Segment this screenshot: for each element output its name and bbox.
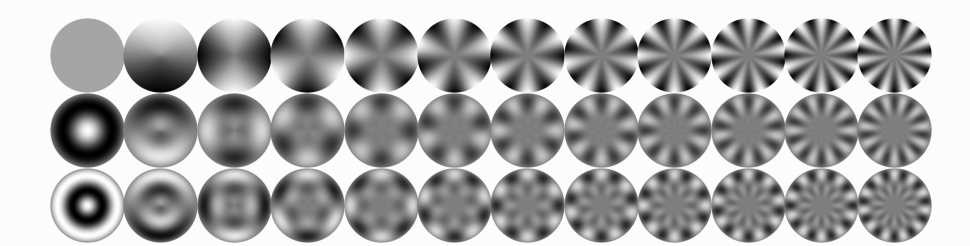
mode-cell-n2-m6: [490, 168, 565, 243]
mode-cell-n0-m1: [123, 18, 198, 93]
mode-disk-n0-m2: [197, 18, 272, 93]
mode-cell-n2-m3: [270, 168, 345, 243]
mode-cell-n2-m11: [857, 168, 932, 243]
mode-disk-n1-m7: [564, 93, 639, 168]
mode-disk-n0-m11: [857, 18, 932, 93]
mode-disk-n2-m3: [270, 168, 345, 243]
mode-cell-n2-m7: [564, 168, 639, 243]
mode-disk-n2-m11: [857, 168, 932, 243]
mode-grid-figure: [0, 0, 970, 246]
mode-disk-n0-m6: [490, 18, 565, 93]
mode-cell-n1-m2: [197, 93, 272, 168]
mode-cell-n2-m4: [344, 168, 419, 243]
mode-disk-n1-m11: [857, 93, 932, 168]
mode-disk-n1-m6: [490, 93, 565, 168]
mode-disk-n2-m9: [711, 168, 786, 243]
mode-disk-n1-m4: [344, 93, 419, 168]
mode-cell-n2-m2: [197, 168, 272, 243]
mode-disk-n2-m4: [344, 168, 419, 243]
mode-disk-n0-m7: [564, 18, 639, 93]
mode-disk-n1-m0: [50, 93, 125, 168]
mode-cell-n2-m10: [784, 168, 859, 243]
mode-disk-n0-m5: [417, 18, 492, 93]
mode-disk-n1-m2: [197, 93, 272, 168]
mode-disk-n0-m3: [270, 18, 345, 93]
mode-cell-n0-m6: [490, 18, 565, 93]
mode-disk-n1-m8: [637, 93, 712, 168]
mode-disk-n1-m1: [123, 93, 198, 168]
mode-disk-n0-m9: [711, 18, 786, 93]
mode-disk-n0-m1: [123, 18, 198, 93]
mode-disk-n1-m3: [270, 93, 345, 168]
mode-disk-n2-m5: [417, 168, 492, 243]
mode-disk-n1-m9: [711, 93, 786, 168]
mode-cell-n0-m8: [637, 18, 712, 93]
mode-disk-n2-m10: [784, 168, 859, 243]
mode-cell-n1-m11: [857, 93, 932, 168]
mode-cell-n1-m9: [711, 93, 786, 168]
mode-cell-n0-m2: [197, 18, 272, 93]
mode-cell-n1-m3: [270, 93, 345, 168]
mode-disk-n1-m5: [417, 93, 492, 168]
mode-disk-n1-m10: [784, 93, 859, 168]
mode-cell-n0-m10: [784, 18, 859, 93]
mode-disk-n2-m8: [637, 168, 712, 243]
mode-cell-n1-m8: [637, 93, 712, 168]
mode-cell-n0-m0: [50, 18, 125, 93]
mode-cell-n2-m9: [711, 168, 786, 243]
mode-disk-n2-m1: [123, 168, 198, 243]
mode-cell-n1-m7: [564, 93, 639, 168]
mode-disk-n0-m10: [784, 18, 859, 93]
mode-cell-n0-m7: [564, 18, 639, 93]
mode-cell-n2-m8: [637, 168, 712, 243]
mode-disk-n0-m4: [344, 18, 419, 93]
mode-cell-n0-m11: [857, 18, 932, 93]
mode-cell-n1-m1: [123, 93, 198, 168]
mode-grid: [0, 0, 970, 246]
mode-cell-n1-m10: [784, 93, 859, 168]
mode-cell-n2-m1: [123, 168, 198, 243]
mode-disk-n2-m0: [50, 168, 125, 243]
mode-disk-n0-m0: [50, 18, 125, 93]
mode-disk-n2-m6: [490, 168, 565, 243]
mode-cell-n1-m5: [417, 93, 492, 168]
mode-disk-n2-m7: [564, 168, 639, 243]
mode-cell-n2-m0: [50, 168, 125, 243]
mode-cell-n0-m4: [344, 18, 419, 93]
mode-disk-n2-m2: [197, 168, 272, 243]
mode-cell-n2-m5: [417, 168, 492, 243]
mode-cell-n1-m6: [490, 93, 565, 168]
mode-cell-n1-m4: [344, 93, 419, 168]
mode-cell-n0-m5: [417, 18, 492, 93]
mode-cell-n1-m0: [50, 93, 125, 168]
mode-cell-n0-m9: [711, 18, 786, 93]
mode-cell-n0-m3: [270, 18, 345, 93]
mode-disk-n0-m8: [637, 18, 712, 93]
